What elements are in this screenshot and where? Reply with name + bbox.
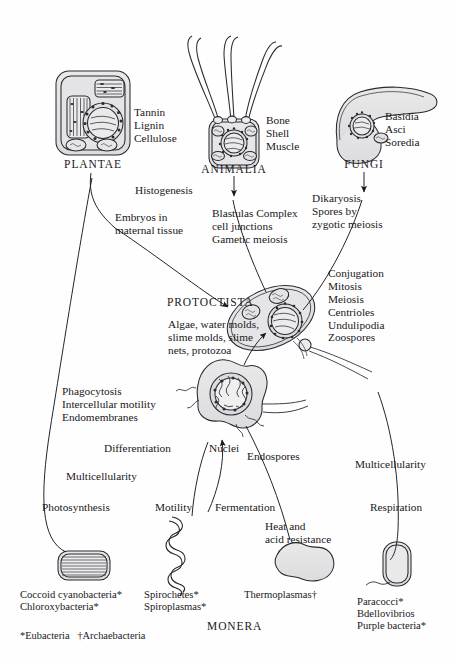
transition-multicellularity-left: Multicellularity <box>66 470 137 483</box>
transition-respiration: Respiration <box>370 501 422 514</box>
monera-paracocci: Paracocci* Bdellovibrios Purple bacteria… <box>357 596 426 632</box>
transition-embryos: Embryos in maternal tissue <box>115 211 183 237</box>
fungi-traits: Basidia Asci Soredia <box>385 110 420 149</box>
kingdom-label-fungi: FUNGI <box>344 158 384 171</box>
kingdom-label-protoctista: PROTOCTISTA <box>167 296 254 309</box>
monera-thermoplasmas: Thermoplasmas† <box>244 589 317 601</box>
transition-photosynthesis: Photosynthesis <box>42 501 110 514</box>
transition-histogenesis: Histogenesis <box>135 184 193 197</box>
transition-phagocytosis: Phagocytosis Intercellular motility Endo… <box>62 385 156 424</box>
transition-multicellularity-right: Multicellularity <box>355 458 426 471</box>
monera-spirochetes: Spirochetes* Spiroplasmas* <box>144 589 206 613</box>
transition-blastulas: Blastulas Complex cell junctions Gametic… <box>212 207 298 246</box>
kingdom-label-plantae: PLANTAE <box>64 158 122 171</box>
plantae-cell-drawing <box>56 71 130 155</box>
nucleated-protist-drawing <box>176 360 308 437</box>
protoctista-members: Algae, water molds, slime molds, slime n… <box>168 318 259 357</box>
monera-organism-drawings <box>58 517 411 596</box>
transition-fermentation: Fermentation <box>215 501 275 514</box>
transition-nuclei: Nuclei <box>209 442 239 455</box>
kingdom-label-monera: MONERA <box>207 620 262 633</box>
kingdom-label-animalia: ANIMALIA <box>201 163 266 176</box>
transition-differentiation: Differentiation <box>104 442 171 455</box>
footnote-legend: *Eubacteria †Archaebacteria <box>20 630 145 642</box>
animalia-traits: Bone Shell Muscle <box>266 114 299 153</box>
five-kingdoms-diagram: PLANTAE Tannin Lignin Cellulose ANIMALIA… <box>0 0 454 664</box>
monera-cyanobacteria: Coccoid cyanobacteria* Chloroxybacteria* <box>20 589 122 613</box>
protoctista-traits: Conjugation Mitosis Meiosis Centrioles U… <box>328 267 384 344</box>
transition-heat-acid: Heat and acid resistance <box>265 520 331 546</box>
plantae-traits: Tannin Lignin Cellulose <box>134 106 177 145</box>
transition-motility: Motility <box>155 501 192 514</box>
transition-endospores: Endospores <box>247 450 300 463</box>
transition-dikaryosis: Dikaryosis Spores by zygotic meiosis <box>312 192 383 231</box>
